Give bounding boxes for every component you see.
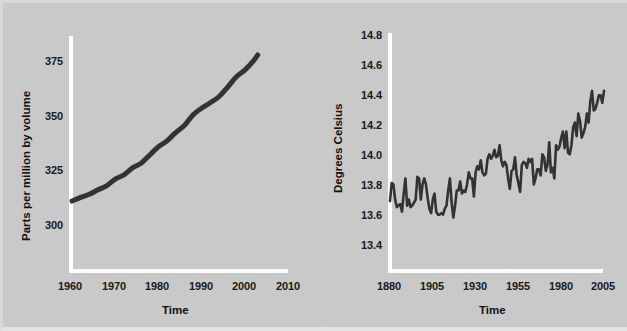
temp-x-tick-1905: 1905 [409, 280, 455, 292]
temp-y-axis-title: Degrees Celsius [332, 104, 344, 194]
temp-y-tick-14-6: 14.6 [334, 59, 382, 71]
temperature-line-svg [388, 33, 606, 271]
co2-x-tick-2010: 2010 [265, 280, 311, 292]
temp-y-tick-14-8: 14.8 [334, 29, 382, 41]
temperature-plot-area [388, 33, 606, 271]
temp-x-tick-1930: 1930 [452, 280, 498, 292]
temp-x-axis-title: Time [479, 304, 506, 316]
co2-data-line [72, 55, 258, 201]
co2-y-axis-title: Parts per million by volume [20, 91, 32, 241]
temperature-data-line [390, 91, 604, 218]
temp-y-tick-13-6: 13.6 [334, 209, 382, 221]
co2-x-tick-1960: 1960 [47, 280, 93, 292]
temp-y-tick-13-4: 13.4 [334, 239, 382, 251]
temp-x-tick-2005: 2005 [580, 280, 626, 292]
co2-y-tick-375: 375 [19, 55, 63, 67]
temp-x-tick-1980: 1980 [538, 280, 584, 292]
co2-x-tick-1980: 1980 [134, 280, 180, 292]
co2-x-tick-1990: 1990 [178, 280, 224, 292]
co2-x-tick-1970: 1970 [91, 280, 137, 292]
co2-plot-area [69, 36, 291, 271]
temp-x-tick-1880: 1880 [366, 280, 412, 292]
temp-y-tick-14-4: 14.4 [334, 89, 382, 101]
two-panel-climate-figure: 375 350 325 300 1960 1970 1980 1990 2000… [0, 0, 627, 331]
co2-x-axis-title: Time [162, 304, 189, 316]
co2-x-tick-2000: 2000 [221, 280, 267, 292]
temperature-chart-panel: 14.8 14.6 14.4 14.2 14.0 13.8 13.6 13.4 … [321, 3, 627, 331]
co2-line-svg [69, 36, 291, 271]
temp-x-tick-1955: 1955 [495, 280, 541, 292]
co2-chart-panel: 375 350 325 300 1960 1970 1980 1990 2000… [3, 3, 321, 331]
